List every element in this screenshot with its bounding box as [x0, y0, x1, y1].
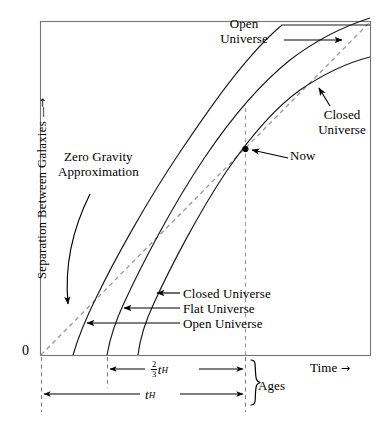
- now-point-marker: [242, 146, 248, 152]
- closed-universe-right-line-1: Closed: [308, 108, 376, 123]
- y-axis-label-text: Separation Between Galaxies: [35, 121, 49, 279]
- subscript-h: H: [149, 390, 156, 400]
- x-axis-label: Time →: [310, 361, 350, 376]
- fraction-denominator: 3: [151, 369, 157, 379]
- open-universe-top-line-2: Universe: [205, 32, 283, 47]
- closed-universe-right-label: Closed Universe: [308, 108, 376, 137]
- fraction-numerator: 2: [151, 360, 157, 369]
- origin-tick-label: 0: [22, 343, 29, 359]
- zero-gravity-line-2: Approximation: [58, 165, 139, 180]
- fraction-two-thirds: 2 3: [151, 360, 157, 378]
- x-axis-label-text: Time: [310, 360, 337, 375]
- now-leader-arrow: [252, 150, 288, 158]
- zero-gravity-callout: [67, 194, 90, 304]
- dimension-label-two-thirds-hubble-time: 2 3 t H: [148, 362, 171, 377]
- ages-label: Ages: [258, 379, 285, 394]
- legend-label-open-universe: Open Universe: [183, 317, 263, 332]
- figure-container: Separation Between Galaxies —→ 0 Zero Gr…: [0, 0, 387, 428]
- dimension-extension-lines: [42, 357, 246, 412]
- zero-gravity-line-1: Zero Gravity: [58, 150, 139, 165]
- y-axis-arrow-icon: —→: [36, 99, 49, 117]
- zero-gravity-approximation-label: Zero Gravity Approximation: [58, 150, 139, 179]
- now-label: Now: [290, 149, 316, 164]
- x-axis-arrow-icon: →: [341, 362, 350, 375]
- legend-label-closed-universe: Closed Universe: [183, 287, 271, 302]
- subscript-h: H: [161, 365, 168, 375]
- closed-universe-right-line-2: Universe: [308, 123, 376, 138]
- legend-label-flat-universe: Flat Universe: [183, 302, 255, 317]
- y-axis-label: Separation Between Galaxies —→: [35, 54, 49, 324]
- legend-callout-arrows: [87, 293, 180, 323]
- closed-universe-right-callout: [319, 88, 330, 106]
- open-universe-top-line-1: Open: [205, 17, 283, 32]
- open-universe-top-label: Open Universe: [205, 17, 283, 46]
- zero-gravity-curved-arrow: [67, 194, 90, 304]
- closed-universe-right-arrow: [319, 88, 330, 106]
- dimension-label-hubble-time: t H: [142, 387, 158, 402]
